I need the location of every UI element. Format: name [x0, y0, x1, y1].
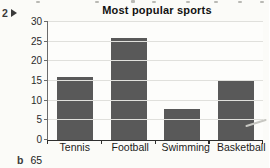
- y-axis-tick: [44, 80, 48, 81]
- y-axis-tick: [44, 21, 48, 22]
- answer-value: 65: [30, 154, 42, 166]
- x-tick-label: Basketball: [214, 141, 270, 153]
- bar-football: [111, 38, 147, 140]
- chart-title: Most popular sports: [47, 4, 267, 16]
- y-axis-labels: 051015202530: [0, 22, 42, 140]
- answer-line: b65: [17, 154, 42, 166]
- gridline: [48, 21, 263, 22]
- x-tick-label: Tennis: [47, 141, 103, 153]
- y-axis-tick: [44, 119, 48, 120]
- bar-tennis: [57, 77, 93, 140]
- y-axis-tick: [44, 41, 48, 42]
- answer-item-label: b: [17, 154, 23, 166]
- y-tick-label: 10: [0, 95, 42, 107]
- x-tick-label: Swimming: [158, 141, 214, 153]
- y-tick-label: 25: [0, 36, 42, 48]
- scanned-textbook-chart-page: 2 Most popular sports 051015202530 Tenni…: [0, 0, 269, 168]
- gridline: [48, 41, 263, 42]
- bar-swimming: [164, 109, 200, 140]
- plot-area: [47, 22, 263, 141]
- y-axis-tick: [44, 60, 48, 61]
- x-axis-labels: TennisFootballSwimmingBasketball: [47, 141, 269, 153]
- gridline: [48, 100, 263, 101]
- y-tick-label: 0: [0, 134, 42, 146]
- gridline: [48, 60, 263, 61]
- y-tick-label: 20: [0, 55, 42, 67]
- y-axis-tick: [44, 100, 48, 101]
- gridline: [48, 80, 263, 81]
- bar-basketball: [218, 81, 254, 140]
- y-tick-label: 15: [0, 75, 42, 87]
- y-tick-label: 5: [0, 114, 42, 126]
- y-tick-label: 30: [0, 16, 42, 28]
- gridline: [48, 119, 263, 120]
- x-tick-label: Football: [103, 141, 159, 153]
